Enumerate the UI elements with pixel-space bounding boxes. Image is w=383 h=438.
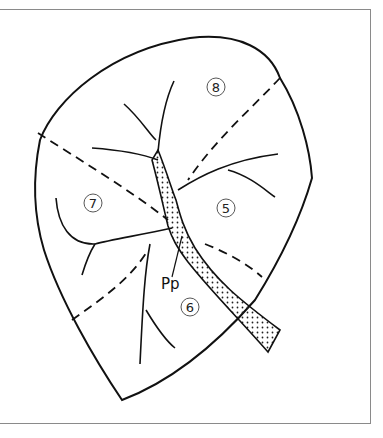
svg-text:5: 5 [222, 201, 230, 216]
svg-text:7: 7 [89, 196, 97, 211]
segment-label-6: 6 [181, 298, 199, 316]
segment-label-8: 8 [207, 78, 225, 96]
pp-label: Pp [161, 275, 180, 293]
segment-label-7: 7 [84, 194, 102, 212]
segment-label-5: 5 [217, 199, 235, 217]
main-trunk [152, 150, 280, 352]
lung-diagram: 8 7 5 6 Pp [0, 0, 383, 438]
svg-text:6: 6 [186, 300, 194, 315]
segment-boundaries [38, 78, 280, 320]
svg-text:8: 8 [212, 80, 220, 95]
